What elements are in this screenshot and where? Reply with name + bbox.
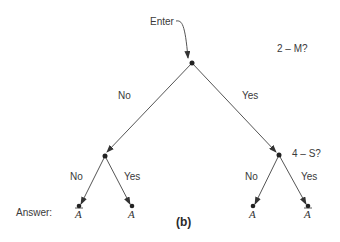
edge-right-no <box>255 155 279 204</box>
decision-tree: Enter 2 – M? No Yes No Yes 4 – S? No Yes… <box>0 0 340 242</box>
leaf-answer-4: A <box>303 208 311 220</box>
edge-root-no <box>107 63 192 152</box>
edge-label-root-no: No <box>118 90 131 101</box>
edge-label-left-yes: Yes <box>124 171 140 182</box>
edge-label-right-no: No <box>245 171 258 182</box>
edge-label-left-no: No <box>70 171 83 182</box>
edge-label-root-yes: Yes <box>242 90 258 101</box>
edge-root-yes <box>192 63 276 152</box>
leaf-answer-2: A <box>127 208 135 220</box>
root-question: 2 – M? <box>277 43 308 54</box>
left-node <box>103 154 108 159</box>
leaf-answer-1: A <box>74 208 82 220</box>
edge-left-no <box>81 156 105 204</box>
right-node <box>277 153 282 158</box>
root-node <box>190 61 195 66</box>
answer-label: Answer: <box>16 207 52 218</box>
leaf-answer-3: A <box>248 208 256 220</box>
enter-arrow <box>176 21 188 58</box>
enter-label: Enter <box>150 16 175 27</box>
right-question: 4 – S? <box>292 148 321 159</box>
edge-label-right-yes: Yes <box>301 171 317 182</box>
figure-caption: (b) <box>176 215 191 229</box>
